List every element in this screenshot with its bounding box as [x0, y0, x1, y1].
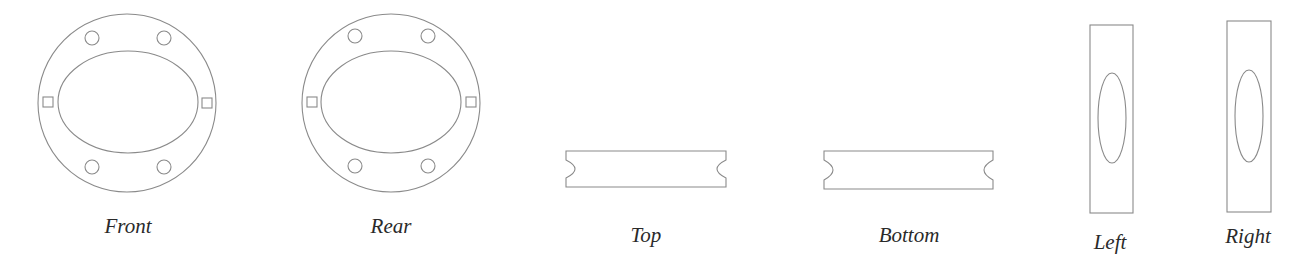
front-square-slot — [43, 97, 53, 107]
rear-bolt-hole — [348, 159, 362, 173]
label-front: Front — [104, 216, 151, 237]
left-hidden-opening — [1098, 73, 1126, 163]
label-right: Right — [1225, 226, 1271, 247]
rear-bolt-hole — [421, 29, 435, 43]
front-bolt-hole — [157, 31, 171, 45]
right-hidden-opening — [1235, 70, 1263, 162]
rear-outer-circle — [302, 14, 480, 192]
front-bolt-hole — [85, 31, 99, 45]
right-side-outline — [1227, 21, 1271, 212]
label-rear: Rear — [371, 216, 412, 237]
left-side-outline — [1090, 25, 1133, 213]
rear-square-slot — [466, 97, 476, 107]
label-left: Left — [1094, 232, 1127, 253]
orthographic-views-diagram: Front Rear Top Bottom Left Right — [0, 0, 1312, 264]
label-top: Top — [631, 225, 662, 246]
rear-bolt-hole — [348, 29, 362, 43]
front-outer-circle — [38, 14, 216, 192]
front-bolt-hole — [157, 160, 171, 174]
label-bottom: Bottom — [879, 225, 940, 246]
rear-inner-opening — [321, 51, 461, 153]
front-inner-opening — [58, 51, 198, 153]
rear-square-slot — [307, 97, 317, 107]
bottom-bar-outline — [824, 151, 993, 189]
rear-bolt-hole — [421, 159, 435, 173]
front-bolt-hole — [85, 160, 99, 174]
front-square-slot — [202, 98, 212, 108]
top-bar-outline — [566, 151, 726, 187]
